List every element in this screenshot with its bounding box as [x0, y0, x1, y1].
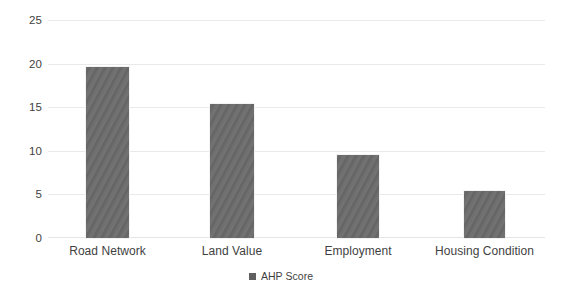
- x-axis: Road Network Land Value Employment Housi…: [48, 243, 545, 263]
- y-tick-label: 15: [8, 101, 42, 113]
- legend-square-marker-icon: [249, 273, 256, 280]
- chart-legend: AHP Score: [0, 270, 562, 282]
- bar-chart: 25 20 15 10 5 0 Road Network Land Value …: [0, 0, 562, 288]
- x-tick-label-road-network: Road Network: [52, 243, 163, 259]
- bar-land-value[interactable]: [210, 104, 254, 238]
- y-tick-label: 0: [8, 232, 42, 244]
- y-tick-label: 5: [8, 188, 42, 200]
- x-tick-label-land-value: Land Value: [178, 243, 286, 259]
- gridline-25: [48, 20, 545, 21]
- y-tick-label: 20: [8, 58, 42, 70]
- plot-area: [48, 20, 545, 238]
- gridline-20: [48, 64, 545, 65]
- x-tick-label-employment: Employment: [304, 243, 412, 259]
- y-tick-label: 25: [8, 14, 42, 26]
- y-tick-label: 10: [8, 145, 42, 157]
- y-axis: 25 20 15 10 5 0: [0, 20, 42, 238]
- x-tick-label-housing-condition: Housing Condition: [428, 243, 541, 259]
- legend-item-label: AHP Score: [261, 270, 313, 282]
- bar-employment[interactable]: [337, 155, 379, 238]
- bar-housing-condition[interactable]: [464, 191, 505, 238]
- bar-road-network[interactable]: [86, 67, 129, 238]
